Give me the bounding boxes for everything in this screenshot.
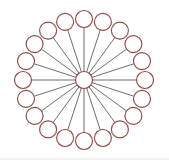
spoke-edge [68, 30, 82, 72]
graph-node[interactable] [40, 22, 57, 39]
graph-node[interactable] [57, 130, 74, 147]
graph-node[interactable] [134, 90, 151, 107]
spoke-edge [87, 30, 101, 72]
graph-node[interactable] [137, 72, 154, 89]
graph-hub-node[interactable] [76, 72, 93, 89]
diagram-canvas [0, 0, 169, 160]
graph-node[interactable] [15, 72, 32, 89]
spoke-edge [41, 85, 77, 111]
graph-node[interactable] [76, 11, 93, 28]
graph-node[interactable] [125, 36, 142, 53]
graph-node[interactable] [94, 13, 111, 30]
graph-node[interactable] [57, 13, 74, 30]
graph-node[interactable] [26, 107, 43, 124]
graph-node[interactable] [94, 130, 111, 147]
graph-node[interactable] [18, 90, 35, 107]
spoke-edge [92, 83, 134, 97]
spoke-edge [89, 37, 115, 73]
spoke-edge [53, 87, 79, 123]
graph-node[interactable] [26, 36, 43, 53]
spoke-edge [34, 83, 76, 97]
spoke-edge [34, 64, 76, 78]
spoke-edge [68, 88, 82, 130]
graph-node[interactable] [111, 22, 128, 39]
graph-node[interactable] [134, 53, 151, 70]
graph-node[interactable] [111, 121, 128, 138]
hub-layer [76, 72, 93, 89]
spoke-edge [87, 88, 101, 130]
graph-node[interactable] [125, 107, 142, 124]
spoke-edge [53, 37, 79, 73]
spoke-edge [91, 85, 127, 111]
spoke-edge [91, 49, 127, 75]
spoke-edge [41, 49, 77, 75]
star-graph-svg [0, 0, 169, 160]
spoke-edge [92, 64, 134, 78]
graph-node[interactable] [76, 133, 93, 150]
graph-node[interactable] [18, 53, 35, 70]
graph-node[interactable] [40, 121, 57, 138]
spoke-edge [89, 87, 115, 123]
